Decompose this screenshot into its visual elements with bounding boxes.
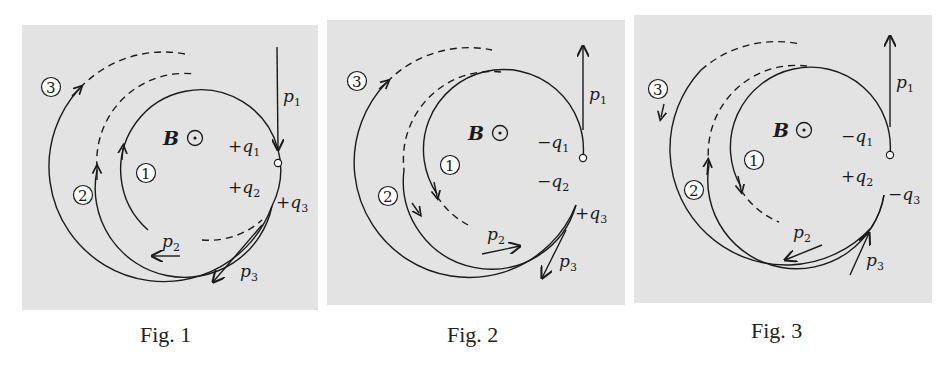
p2-label: p2 [487, 224, 505, 247]
figure-2-caption: Fig. 2 [447, 322, 498, 348]
track-2-direction-arrow [707, 162, 708, 175]
figure-3 [649, 36, 894, 275]
figure-2 [348, 46, 587, 278]
p3-label: p3 [559, 251, 577, 274]
q1-label: −q1 [841, 126, 873, 149]
b-field-label: B [162, 127, 179, 149]
track-3-direction-arrow [72, 88, 80, 96]
track-3-dashed [387, 48, 492, 82]
q3-label: +q3 [575, 203, 607, 226]
b-field-label: B [467, 122, 484, 144]
track-3-dashed [701, 42, 800, 70]
track-1 [121, 90, 281, 230]
track-3-join [871, 195, 884, 228]
p2-arrow [785, 245, 822, 260]
track-3-direction-arrow [661, 104, 664, 117]
q2-label: +q2 [228, 177, 260, 200]
p1-label: p1 [896, 72, 914, 95]
track-3-number: 3 [352, 73, 362, 91]
figure-1-caption: Fig. 1 [140, 322, 191, 348]
track-1-dashed [437, 196, 468, 225]
p1-label: p1 [589, 84, 607, 107]
p1-arrow [277, 47, 278, 150]
q1-label: +q1 [228, 136, 260, 159]
track-2-dashed [97, 73, 195, 168]
q2-label: +q2 [841, 166, 873, 189]
p2-arrow [482, 246, 520, 254]
track-2-number: 2 [689, 182, 699, 200]
track-3-dashed [80, 52, 190, 88]
track-1-dashed [741, 190, 779, 222]
track-2-number: 2 [78, 187, 88, 205]
p3-label: p3 [240, 261, 258, 284]
q3-label: +q3 [276, 192, 308, 215]
track-2-number: 2 [383, 188, 393, 206]
track-3-number: 3 [653, 81, 663, 99]
p2-label: p2 [162, 231, 180, 254]
track-2-dashed [708, 65, 807, 165]
p1-label: p1 [283, 86, 301, 109]
track-3-direction-arrow [379, 82, 387, 89]
decay-point [886, 151, 893, 158]
track-1-number: 1 [445, 157, 455, 175]
track-2-direction-arrow [412, 203, 419, 213]
decay-point [274, 159, 281, 166]
decay-point [579, 154, 586, 161]
q2-label: −q2 [537, 171, 569, 194]
q1-label: −q1 [537, 132, 569, 155]
track-3-number: 3 [46, 79, 56, 97]
track-1-number: 1 [749, 152, 759, 170]
figure-3-labels: B 1 2 3 p1 −q1 +q2 −q3 p2 p3 [653, 72, 920, 273]
q3-label: −q3 [888, 184, 920, 207]
diagram-canvas: B 1 2 3 p1 +q1 +q2 +q3 p2 p3 [0, 0, 951, 371]
p3-label: p3 [866, 250, 884, 273]
figure-1-labels: B 1 2 3 p1 +q1 +q2 +q3 p2 p3 [46, 79, 308, 284]
p2-label: p2 [793, 222, 811, 245]
track-1-direction-arrow [122, 148, 123, 160]
figure-3-caption: Fig. 3 [751, 318, 802, 344]
b-field-label: B [772, 119, 789, 141]
track-1-dashed [202, 220, 262, 240]
track-1-number: 1 [141, 165, 151, 183]
